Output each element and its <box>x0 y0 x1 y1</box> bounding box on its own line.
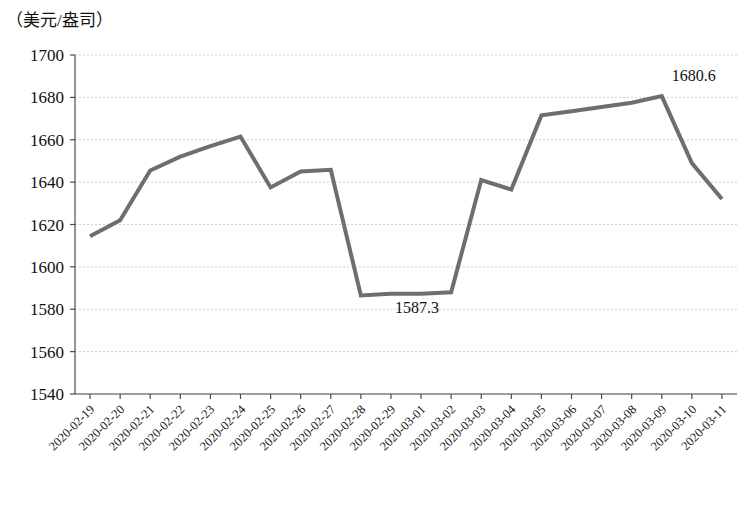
minimum-label: 1587.3 <box>395 300 439 316</box>
y-axis-tick-label: 1580 <box>8 301 64 318</box>
y-axis-tick-label: 1640 <box>8 174 64 191</box>
gold-price-line-chart: （美元/盎司） 17001680166016401620160015801560… <box>0 0 744 523</box>
y-axis-tick-label: 1540 <box>8 386 64 403</box>
x-axis-ticks <box>90 394 722 399</box>
y-axis-tick-label: 1680 <box>8 89 64 106</box>
y-axis-tick-label: 1660 <box>8 132 64 149</box>
y-axis-ticks <box>70 55 75 394</box>
y-axis-tick-label: 1560 <box>8 344 64 361</box>
y-axis-tick-label: 1620 <box>8 217 64 234</box>
gridlines <box>75 55 737 394</box>
axis-lines <box>75 55 737 394</box>
price-series-line <box>90 96 722 295</box>
y-axis-tick-label: 1600 <box>8 259 64 276</box>
y-axis-tick-label: 1700 <box>8 47 64 64</box>
maximum-label: 1680.6 <box>672 68 716 84</box>
